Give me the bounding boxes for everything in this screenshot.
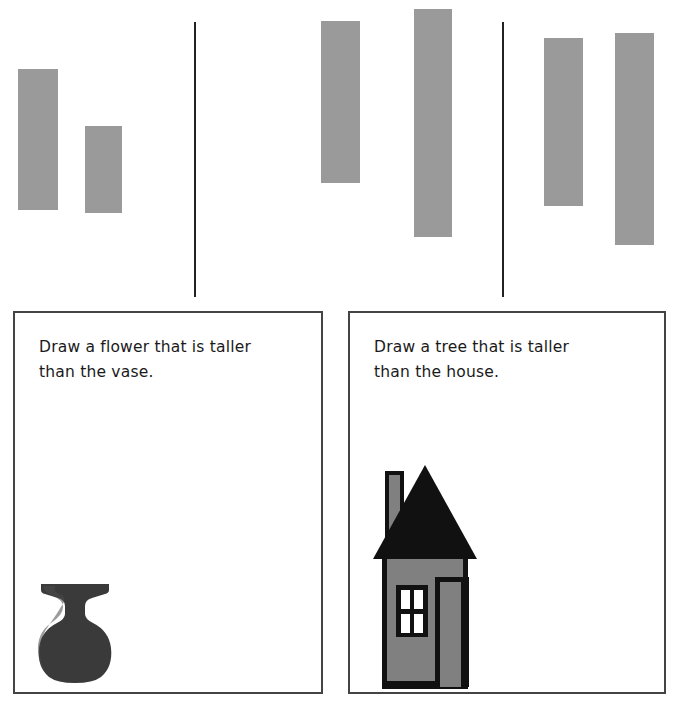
group-divider-line (502, 22, 504, 297)
comparison-bar (321, 21, 360, 183)
comparison-bar (615, 33, 654, 245)
house-illustration (371, 459, 483, 694)
task-prompt-tree: Draw a tree that is taller than the hous… (374, 335, 642, 385)
comparison-bar (18, 69, 58, 210)
task-prompt-flower: Draw a flower that is taller than the va… (39, 335, 307, 385)
task-box-tree-house[interactable]: Draw a tree that is taller than the hous… (348, 311, 666, 694)
worksheet-page: Draw a flower that is taller than the va… (0, 0, 678, 714)
comparison-bar (85, 126, 122, 213)
comparison-bar (544, 38, 583, 206)
house-icon (371, 459, 483, 694)
group-divider-line (194, 22, 196, 297)
vase-icon (35, 581, 115, 685)
door-icon (435, 577, 469, 687)
comparison-bar (414, 9, 452, 237)
task-box-flower-vase[interactable]: Draw a flower that is taller than the va… (13, 311, 323, 694)
vase-illustration (35, 581, 115, 685)
window-icon (396, 585, 428, 637)
